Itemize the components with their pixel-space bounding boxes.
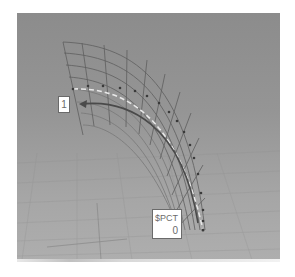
pct-name: $PCT [155,213,178,223]
end-marker-text: 1 [61,99,67,110]
viewport-bottom-edge [17,259,280,262]
arrow-left-icon [79,100,87,108]
pct-value: 0 [155,226,178,236]
start-marker-label: $PCT 0 [152,209,182,239]
curved-mesh-surface [63,42,205,230]
floor-axis [47,203,127,260]
motion-path-curve [81,103,198,223]
end-marker-label: 1 [58,96,70,113]
scene-canvas[interactable] [17,13,280,260]
floor-grid [17,151,280,260]
3d-viewport[interactable]: 1 $PCT 0 [17,13,280,260]
